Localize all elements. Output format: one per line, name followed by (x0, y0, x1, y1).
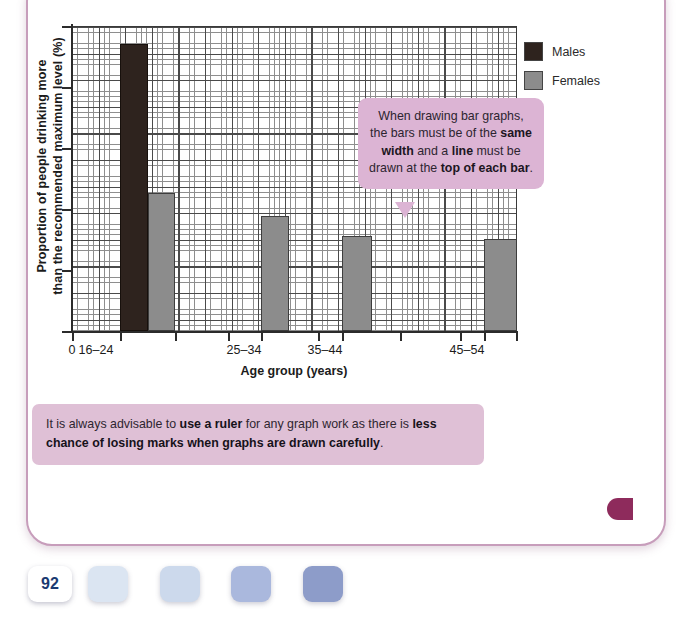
bar-females-16-24 (148, 193, 175, 331)
x-axis-label-25-34: 25–34 (214, 343, 274, 357)
bar-females-35-44 (342, 236, 372, 331)
x-axis-label-45-54: 45–54 (437, 343, 497, 357)
y-axis-label-line-1: Proportion of people drinking more (34, 6, 50, 326)
legend-item-females: Females (524, 71, 629, 90)
y-axis-tick (62, 148, 72, 150)
legend-swatch-females-icon (524, 71, 543, 90)
x-axis-tick (318, 331, 320, 341)
advice-note-box: It is always advisable to use a ruler fo… (32, 404, 484, 465)
y-axis-label-line-2: than the recommended maximum level (%) (50, 6, 66, 326)
chart-y-axis-line (71, 24, 73, 333)
chart-x-axis-title: Age group (years) (72, 364, 516, 378)
callout-bubble: When drawing bar graphs, the bars must b… (358, 98, 544, 189)
x-axis-tick (228, 331, 230, 341)
body-text: . (530, 161, 533, 175)
bar-females-45-54 (484, 239, 517, 331)
legend-swatch-males-icon (524, 42, 543, 61)
x-axis-tick (516, 331, 518, 341)
x-axis-tick (72, 331, 74, 341)
x-axis-tick (484, 331, 486, 341)
y-axis-tick (62, 87, 72, 89)
body-text: for any graph work as there is (242, 417, 412, 431)
x-axis-tick (400, 331, 402, 341)
x-axis-tick (175, 331, 177, 341)
footer-swatch-3[interactable] (231, 566, 271, 602)
chart-legend: MalesFemales (524, 42, 629, 100)
page-footer: 92 (0, 560, 633, 624)
chart-y-axis-label: Proportion of people drinking more than … (34, 6, 66, 326)
y-axis-tick (62, 270, 72, 272)
body-text: and a (414, 144, 452, 158)
x-axis-tick (342, 331, 344, 341)
page-edge-tab (607, 498, 633, 520)
footer-swatch-1[interactable] (88, 566, 128, 602)
y-axis-tick (62, 331, 72, 333)
emphasis-text: line (452, 144, 473, 158)
x-axis-tick (261, 331, 263, 341)
x-axis-label-16-24: 16–24 (66, 343, 126, 357)
body-text: . (380, 436, 383, 450)
body-text: It is always advisable to (46, 417, 180, 431)
chart-x-axis-line (71, 331, 518, 333)
bar-chart: Proportion of people drinking more than … (0, 0, 633, 390)
x-axis-label-35-44: 35–44 (295, 343, 355, 357)
callout-bubble-tail (395, 202, 415, 218)
footer-swatch-2[interactable] (160, 566, 200, 602)
emphasis-text: use a ruler (180, 417, 243, 431)
bar-males-16-24 (120, 44, 148, 331)
bar-females-25-34 (261, 216, 289, 331)
y-axis-tick (62, 209, 72, 211)
emphasis-text: top of each bar (441, 161, 530, 175)
page-number: 92 (28, 566, 72, 602)
x-axis-tick (460, 331, 462, 341)
legend-label: Males (552, 45, 585, 59)
y-axis-tick (62, 26, 72, 28)
footer-swatch-4[interactable] (303, 566, 343, 602)
legend-label: Females (552, 74, 600, 88)
x-axis-tick (120, 331, 122, 341)
legend-item-males: Males (524, 42, 629, 61)
